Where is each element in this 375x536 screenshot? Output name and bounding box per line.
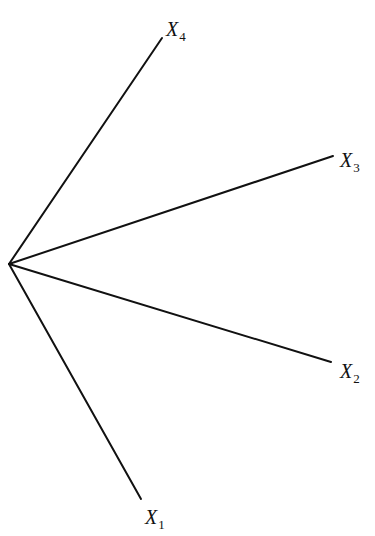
ray-diagram: X4X3X2X1 (0, 0, 375, 536)
label-subscript: 3 (353, 160, 360, 175)
label-x2: X2 (339, 360, 360, 386)
label-subscript: 4 (179, 29, 186, 44)
labels-group: X4X3X2X1 (144, 18, 360, 532)
rays-group (9, 38, 333, 499)
label-x4: X4 (165, 18, 186, 44)
label-subscript: 2 (353, 371, 360, 386)
ray-x1 (9, 264, 141, 499)
label-x1: X1 (144, 506, 165, 532)
label-x3: X3 (339, 149, 360, 175)
ray-x2 (9, 264, 331, 362)
ray-x4 (9, 38, 162, 264)
label-subscript: 1 (158, 517, 165, 532)
ray-x3 (9, 156, 333, 264)
